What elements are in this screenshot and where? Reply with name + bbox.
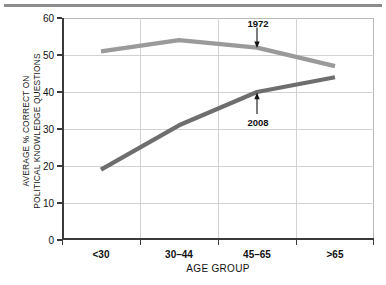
y-axis-title: AVERAGE % CORRECT ON POLITICAL KNOWLEDGE…: [21, 31, 43, 231]
x-tick-mark: [62, 240, 63, 245]
y-axis-title-line-1: AVERAGE % CORRECT ON: [21, 31, 32, 231]
x-tick-mark: [218, 240, 219, 245]
x-tick-label: <30: [93, 249, 110, 260]
x-tick-label: 30–44: [165, 249, 193, 260]
x-tick-mark: [140, 240, 141, 245]
arrow-head-1972: [254, 41, 259, 48]
x-tick-label: 45–65: [243, 249, 271, 260]
y-axis-title-line-2: POLITICAL KNOWLEDGE QUESTIONS: [32, 31, 43, 231]
y-tick-label: 30: [43, 124, 54, 135]
x-tick-label: >65: [327, 249, 344, 260]
y-tick-label: 10: [43, 198, 54, 209]
chart-figure: AVERAGE % CORRECT ON POLITICAL KNOWLEDGE…: [0, 0, 386, 285]
annotation-label-1972: 1972: [247, 18, 268, 29]
plot-area: 0102030405060 <3030–4445–65>65: [62, 18, 374, 240]
y-tick-label: 0: [48, 235, 54, 246]
annotation-label-2008: 2008: [247, 117, 268, 128]
x-axis-title: AGE GROUP: [62, 263, 374, 274]
y-tick-label: 40: [43, 87, 54, 98]
annotation-arrows: [62, 18, 374, 240]
y-tick-label: 60: [43, 13, 54, 24]
arrow-head-2008: [254, 93, 259, 100]
x-tick-mark: [296, 240, 297, 245]
x-tick-mark: [373, 240, 374, 245]
y-tick-label: 50: [43, 50, 54, 61]
y-tick-label: 20: [43, 161, 54, 172]
top-divider-rule: [4, 4, 382, 7]
